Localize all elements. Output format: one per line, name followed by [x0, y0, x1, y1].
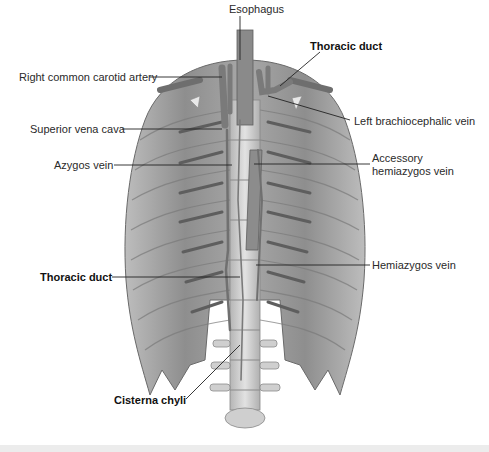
label-left-brachiocephalic-vein: Left brachiocephalic vein [354, 115, 475, 127]
label-thoracic-duct-bottom: Thoracic duct [40, 271, 112, 283]
label-accessory-hemiazygos-vein-line1: Accessory [372, 152, 423, 164]
footer-strip [0, 445, 489, 452]
label-hemiazygos-vein: Hemiazygos vein [372, 259, 456, 271]
label-cisterna-chyli: Cisterna chyli [114, 394, 186, 406]
label-esophagus: Esophagus [229, 3, 284, 15]
thoracic-cavity-illustration [0, 0, 489, 452]
anatomy-figure: Esophagus Thoracic duct Right common car… [0, 0, 489, 452]
label-accessory-hemiazygos-vein-line2: hemiazygos vein [372, 165, 454, 177]
label-azygos-vein: Azygos vein [54, 159, 113, 171]
label-thoracic-duct-top: Thoracic duct [310, 40, 382, 52]
label-right-common-carotid-artery: Right common carotid artery [19, 71, 157, 83]
label-superior-vena-cava: Superior vena cava [30, 123, 125, 135]
